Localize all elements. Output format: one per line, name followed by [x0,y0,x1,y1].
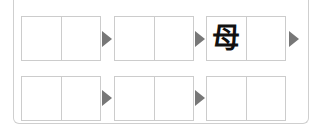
char-cell[interactable] [154,17,194,60]
word-box-r2-g3 [206,76,286,121]
word-box-r2-g2 [114,76,194,121]
char-cell[interactable] [61,77,101,120]
char-cell[interactable] [154,77,194,120]
char-cell[interactable] [22,77,61,120]
play-arrow-icon [102,90,112,106]
play-arrow-icon [102,31,112,47]
play-arrow-icon [195,90,205,106]
char-cell[interactable]: 母 [207,17,246,60]
char-cell[interactable] [22,17,61,60]
char-cell[interactable] [246,77,286,120]
char-cell[interactable] [61,17,101,60]
word-box-r1-g1 [21,16,101,61]
word-box-r1-g2 [114,16,194,61]
word-box-r2-g1 [21,76,101,121]
char-cell[interactable] [207,77,246,120]
char-cell[interactable] [115,17,154,60]
word-box-r1-g3: 母 [206,16,286,61]
play-arrow-icon [195,31,205,47]
play-arrow-icon [289,31,299,47]
char-cell[interactable] [115,77,154,120]
char-cell[interactable] [246,17,286,60]
